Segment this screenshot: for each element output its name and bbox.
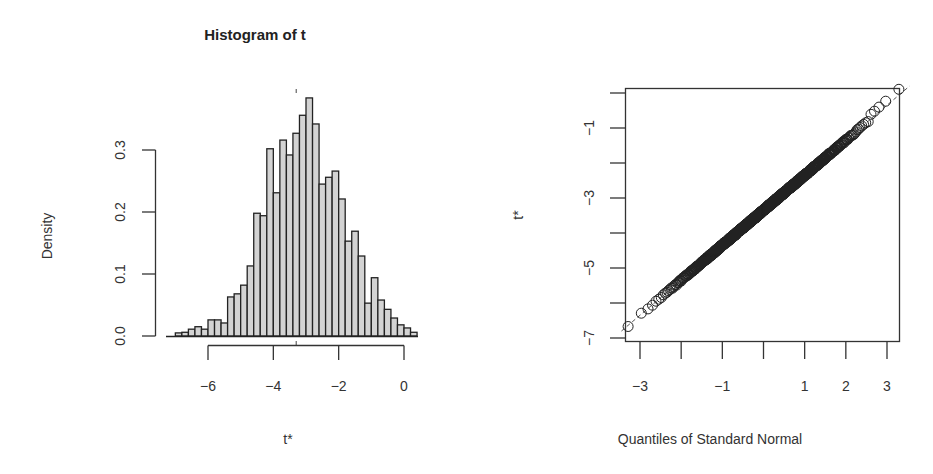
histogram-bar xyxy=(397,325,404,336)
histogram-bar xyxy=(234,294,241,336)
histogram-bar xyxy=(339,199,346,336)
x-tick-label: 3 xyxy=(883,378,891,394)
histogram-y-label: Density xyxy=(39,213,55,260)
histogram-bar xyxy=(378,300,385,336)
x-tick-label: 1 xyxy=(801,378,809,394)
histogram-bar xyxy=(247,266,254,336)
qq-point xyxy=(623,322,633,332)
x-tick-label: −4 xyxy=(265,378,281,394)
histogram-bar xyxy=(215,320,222,336)
histogram-bar xyxy=(319,184,326,336)
histogram-bar xyxy=(267,149,274,336)
x-tick-label: −2 xyxy=(331,378,347,394)
histogram-bar xyxy=(273,193,280,336)
y-tick-label: −7 xyxy=(581,330,597,346)
histogram-bar xyxy=(195,327,202,336)
x-tick-label: 0 xyxy=(400,378,408,394)
histogram-bar xyxy=(332,171,339,336)
y-tick-label: −5 xyxy=(581,260,597,276)
y-tick-label: 0.0 xyxy=(112,326,128,346)
histogram-y-axis: 0.00.10.20.3 xyxy=(112,140,156,346)
histogram-bar xyxy=(182,332,189,336)
histogram-bar xyxy=(254,213,261,336)
histogram-bar xyxy=(345,241,352,336)
histogram-bar xyxy=(260,216,267,336)
x-tick-label: −3 xyxy=(632,378,648,394)
histogram-bar xyxy=(358,256,365,336)
y-tick-label: 0.1 xyxy=(112,264,128,284)
chart-canvas: Histogram of t0.00.10.20.3Density−6−4−20… xyxy=(0,0,933,474)
histogram-bar xyxy=(286,155,293,336)
x-tick-label: 2 xyxy=(842,378,850,394)
histogram-bar xyxy=(352,231,359,336)
histogram-bar xyxy=(221,323,228,336)
histogram-bar xyxy=(299,115,306,336)
qq-y-axis: −7−5−3−1 xyxy=(581,93,626,346)
qq-points xyxy=(623,84,904,331)
histogram-bars xyxy=(175,98,417,336)
histogram-bar xyxy=(313,124,320,336)
histogram-bar xyxy=(228,297,235,336)
histogram-bar xyxy=(391,318,398,336)
histogram-bar xyxy=(208,320,215,336)
histogram-bar xyxy=(175,333,182,336)
histogram-bar xyxy=(306,98,313,336)
y-tick-label: −1 xyxy=(581,120,597,136)
qq-point xyxy=(881,96,891,106)
histogram-bar xyxy=(371,278,378,336)
histogram-bar xyxy=(201,329,208,336)
y-tick-label: 0.3 xyxy=(112,140,128,160)
qq-y-label: t* xyxy=(510,210,526,220)
histogram-bar xyxy=(411,332,418,336)
x-tick-label: −6 xyxy=(200,378,216,394)
qq-x-label: Quantiles of Standard Normal xyxy=(618,431,802,447)
histogram-bar xyxy=(365,303,372,336)
histogram-bar xyxy=(241,285,248,336)
y-tick-label: −3 xyxy=(581,190,597,206)
x-tick-label: −1 xyxy=(714,378,730,394)
histogram-title: Histogram of t xyxy=(204,26,306,43)
histogram-bar xyxy=(280,140,287,336)
histogram-x-label: t* xyxy=(283,431,293,447)
y-tick-label: 0.2 xyxy=(112,202,128,222)
histogram-bar xyxy=(293,133,300,336)
histogram-bar xyxy=(404,328,411,336)
histogram-bar xyxy=(326,177,333,336)
histogram-bar xyxy=(384,309,391,336)
histogram-x-axis: −6−4−20 xyxy=(200,346,408,395)
qq-x-axis: −3−1123 xyxy=(632,342,891,395)
histogram-bar xyxy=(188,329,195,336)
histogram-panel: Histogram of t0.00.10.20.3Density−6−4−20… xyxy=(39,26,418,447)
qq-plot-panel: −7−5−3−1t*−3−1123Quantiles of Standard N… xyxy=(510,84,910,447)
